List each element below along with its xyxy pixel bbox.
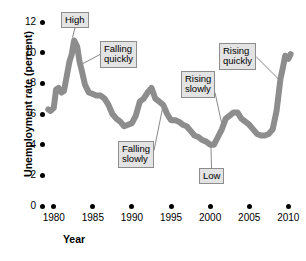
annotation-leader-line <box>256 57 280 81</box>
x-tick-dot <box>247 204 252 209</box>
annotation-callout: Fallingquickly <box>100 41 137 68</box>
x-tick-dot <box>208 204 213 209</box>
y-tick-dot <box>40 173 45 178</box>
annotation-callout: Low <box>199 168 224 184</box>
x-tick-label: 2000 <box>193 212 227 223</box>
y-tick-label: 0 <box>14 200 36 211</box>
chart-figure: Unemployment rate (percent) Year 0246810… <box>0 0 306 261</box>
annotation-leader-line <box>154 105 163 151</box>
annotation-callout: Risingslowly <box>181 71 215 98</box>
x-tick-label: 2010 <box>271 212 305 223</box>
annotation-label: slowly <box>185 84 211 95</box>
x-tick-dot <box>169 204 174 209</box>
annotation-label: Low <box>203 171 220 182</box>
y-tick-dot <box>40 81 45 86</box>
annotation-callout: Fallingslowly <box>118 141 154 168</box>
x-tick-dot <box>51 204 56 209</box>
annotation-callout: High <box>61 12 89 28</box>
annotation-label: quickly <box>223 56 252 67</box>
y-tick-label: 8 <box>14 77 36 88</box>
x-tick-label: 1990 <box>115 212 149 223</box>
y-tick-label: 6 <box>14 108 36 119</box>
annotation-label: quickly <box>104 54 133 65</box>
annotation-leader-line <box>80 55 100 65</box>
y-tick-label: 4 <box>14 139 36 150</box>
annotation-leader-line <box>211 145 212 168</box>
x-tick-label: 1985 <box>76 212 110 223</box>
annotation-label: High <box>65 15 85 26</box>
y-tick-label: 2 <box>14 169 36 180</box>
annotation-label: slowly <box>122 154 150 165</box>
x-tick-dot <box>90 204 95 209</box>
y-tick-dot <box>40 20 45 25</box>
y-tick-label: 12 <box>14 16 36 27</box>
y-tick-label: 10 <box>14 47 36 58</box>
y-tick-dot <box>40 112 45 117</box>
x-tick-dot <box>286 204 291 209</box>
annotation-leader-line <box>73 28 75 37</box>
x-tick-label: 1995 <box>154 212 188 223</box>
x-tick-label: 2005 <box>232 212 266 223</box>
x-tick-label: 1980 <box>37 212 71 223</box>
annotation-callout: Risingquickly <box>219 43 256 70</box>
y-tick-dot <box>40 204 45 209</box>
